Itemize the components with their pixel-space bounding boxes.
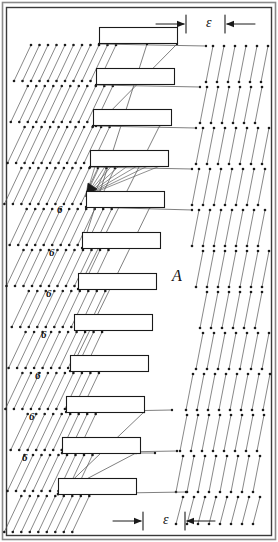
hatch-dot [76, 208, 79, 211]
hatch-line [222, 292, 229, 328]
hatch-dot [238, 81, 241, 84]
hatch-dot [107, 249, 110, 252]
hatch-dot [195, 368, 198, 371]
hatch-line [65, 45, 82, 81]
hatch-dot [30, 44, 33, 47]
hatch-dot [80, 203, 83, 206]
hatch-line [262, 128, 269, 164]
hatch-dot [202, 250, 205, 253]
bar [71, 356, 149, 372]
hatch-dot [21, 372, 24, 375]
hatch-dot [83, 454, 86, 457]
hatch-dot [53, 326, 56, 329]
hatch-dot [199, 122, 202, 125]
hatch-dot [44, 85, 47, 88]
hatch-line [257, 415, 264, 451]
dimension-arrowhead [177, 21, 185, 27]
hatch-dot [215, 455, 218, 458]
hatch-dot [24, 367, 27, 370]
hatch-dot [35, 449, 38, 452]
hatch-dot [64, 80, 67, 83]
hatch-dot [25, 208, 28, 211]
connector-dot [171, 409, 173, 411]
hatch-dot [185, 409, 188, 412]
hatch-dot [217, 286, 220, 289]
hatch-dot [32, 454, 35, 457]
hatch-line [209, 497, 216, 524]
hatch-dot [234, 450, 237, 453]
hatch-dot [203, 373, 206, 376]
hatch-dot [217, 291, 220, 294]
hatch-dot [186, 414, 189, 417]
hatch-dot [62, 326, 65, 329]
hatch-line [45, 414, 62, 450]
hatch-dot [20, 495, 23, 498]
hatch-line [25, 127, 42, 163]
hatch-dot [223, 450, 226, 453]
hatch-dot [239, 86, 242, 89]
hatch-dot [67, 367, 70, 370]
hatch-dot [209, 209, 212, 212]
hatch-dot [179, 450, 182, 453]
hatch-dot [20, 203, 23, 206]
hatch-dot [212, 45, 215, 48]
hatch-dot [27, 121, 30, 124]
hatch-line [252, 374, 259, 410]
hatch-line [200, 292, 207, 328]
hatch-dot [202, 245, 205, 248]
hatch-dot [74, 162, 77, 165]
hatch-line [214, 169, 221, 205]
hatch-dot [241, 414, 244, 417]
connector-dot [199, 86, 201, 88]
hatch-line [244, 87, 251, 123]
hatch-dot [83, 162, 86, 165]
hatch-dot [64, 408, 67, 411]
hatch-dot [78, 121, 81, 124]
hatch-dot [89, 44, 92, 47]
hatch-dot [215, 496, 218, 499]
hatch-dot [252, 414, 255, 417]
hatch-dot [191, 204, 194, 207]
hatch-line [47, 168, 64, 204]
hatch-dot [78, 85, 81, 88]
hatch-line [33, 455, 50, 491]
bar [94, 110, 172, 126]
hatch-dot [257, 127, 260, 130]
hatch-dot [202, 204, 205, 207]
hatch-dot [49, 454, 52, 457]
hatch-dot [256, 45, 259, 48]
hatch-dot [206, 286, 209, 289]
hatch-dot [237, 455, 240, 458]
hatch-line [36, 86, 53, 122]
hatch-dot [71, 531, 74, 534]
hatch-line [239, 46, 246, 82]
hatch-dot [92, 331, 95, 334]
reference-label-6-3: 6 [46, 288, 52, 299]
hatch-dot [86, 85, 89, 88]
hatch-line [55, 496, 72, 532]
hatch-line [20, 291, 37, 327]
hatch-dot [86, 413, 89, 416]
hatch-line [229, 251, 236, 287]
hatch-dot [218, 409, 221, 412]
hatch-dot [220, 168, 223, 171]
hatch-dot [217, 86, 220, 89]
hatch-dot [49, 490, 52, 493]
bar [97, 69, 175, 85]
hatch-line [42, 455, 59, 491]
hatch-dot [246, 250, 249, 253]
hatch-dot [231, 209, 234, 212]
epsilon-label-1: ε [206, 16, 212, 30]
hatch-dot [192, 373, 195, 376]
hatch-dot [253, 168, 256, 171]
hatch-dot [15, 162, 18, 165]
hatch-dot [86, 121, 89, 124]
hatch-line [30, 496, 47, 532]
hatch-line [231, 456, 238, 492]
hatch-dot [264, 209, 267, 212]
hatch-line [18, 209, 35, 245]
hatch-dot [101, 331, 104, 334]
hatch-dot [57, 162, 60, 165]
hatch-dot [37, 495, 40, 498]
hatch-dot [219, 491, 222, 494]
